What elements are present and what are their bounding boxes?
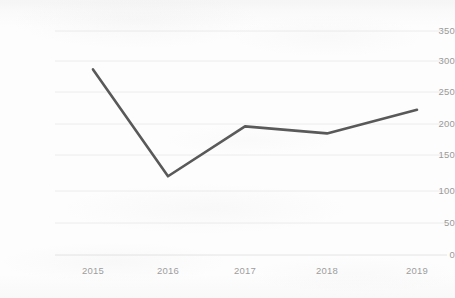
x-axis-label-group: 2015 2016 2017 2018 2019 bbox=[0, 0, 455, 298]
line-chart-figure: 350 300 250 200 150 100 50 0 2015 2016 2… bbox=[0, 0, 455, 298]
x-tick-label-2016: 2016 bbox=[157, 266, 179, 276]
x-tick-label-2017: 2017 bbox=[234, 266, 256, 276]
x-tick-label-2015: 2015 bbox=[82, 266, 104, 276]
x-tick-label-2019: 2019 bbox=[406, 266, 428, 276]
x-tick-label-2018: 2018 bbox=[316, 266, 338, 276]
